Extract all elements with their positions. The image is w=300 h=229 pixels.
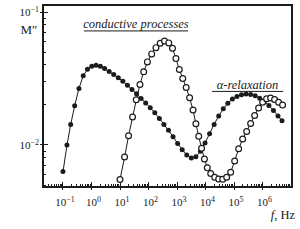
filled-circle-marker xyxy=(212,122,217,127)
open-circle-marker xyxy=(166,40,172,46)
y-axis-label: M″ xyxy=(21,22,38,37)
open-circle-marker xyxy=(256,105,262,111)
filled-circle-marker xyxy=(203,140,208,145)
filled-circle-marker xyxy=(171,134,176,139)
open-circle-marker xyxy=(244,129,250,135)
open-circle-marker xyxy=(149,51,155,57)
filled-circle-marker xyxy=(76,86,81,91)
open-circle-marker xyxy=(232,158,238,164)
open-circle-marker xyxy=(280,102,286,108)
annotation-label-1: α-relaxation xyxy=(217,78,279,92)
filled-circle-marker xyxy=(157,116,162,121)
filled-circle-marker xyxy=(207,131,212,136)
filled-circle-marker xyxy=(248,92,253,97)
filled-circle-marker xyxy=(266,103,271,108)
open-circle-marker xyxy=(204,165,210,171)
filled-circle-marker xyxy=(276,114,281,119)
filled-circle-marker xyxy=(68,122,73,127)
figure: 10−110010110210310410510610−110−2M″f, Hz… xyxy=(0,0,300,229)
open-circle-marker xyxy=(117,177,123,183)
filled-circle-marker xyxy=(189,156,194,161)
y-tick-label: 10−2 xyxy=(19,138,39,151)
filled-circle-marker xyxy=(64,142,69,147)
filled-circle-marker xyxy=(85,67,90,72)
filled-circle-marker xyxy=(244,92,249,97)
filled-circle-marker xyxy=(239,92,244,97)
filled-circle-marker xyxy=(148,105,153,110)
filled-circle-marker xyxy=(175,141,180,146)
open-circle-marker xyxy=(240,136,246,142)
filled-circle-marker xyxy=(216,114,221,119)
open-circle-marker xyxy=(173,56,179,62)
filled-circle-marker xyxy=(94,63,99,68)
open-circle-marker xyxy=(236,146,242,152)
mm-vs-frequency-plot: 10−110010110210310410510610−110−2M″f, Hz… xyxy=(0,0,300,229)
filled-circle-marker xyxy=(184,152,189,157)
filled-circle-marker xyxy=(89,64,94,69)
filled-circle-marker xyxy=(221,106,226,111)
filled-circle-marker xyxy=(253,93,258,98)
x-tick-label: 105 xyxy=(229,195,244,208)
open-circle-marker xyxy=(190,107,196,113)
open-circle-marker xyxy=(130,114,136,120)
x-tick-label: 101 xyxy=(115,195,130,208)
filled-circle-marker xyxy=(81,73,86,78)
filled-circle-marker xyxy=(116,75,121,80)
filled-circle-marker xyxy=(271,108,276,113)
filled-circle-marker xyxy=(60,169,65,174)
filled-circle-marker xyxy=(111,72,116,77)
filled-circle-marker xyxy=(102,66,107,71)
open-circle-marker xyxy=(137,82,143,88)
x-tick-label: 102 xyxy=(143,195,158,208)
filled-circle-marker xyxy=(143,101,148,106)
open-circle-marker xyxy=(126,133,132,139)
filled-circle-marker xyxy=(280,118,285,123)
annotation-label-0: conductive processes xyxy=(83,17,189,31)
filled-circle-marker xyxy=(120,79,125,84)
filled-circle-marker xyxy=(193,154,198,159)
open-circle-marker xyxy=(193,121,199,127)
open-circle-marker xyxy=(133,97,139,103)
x-tick-label: 103 xyxy=(172,195,187,208)
open-circle-marker xyxy=(187,95,193,101)
filled-circle-marker xyxy=(225,101,230,106)
x-tick-label: 106 xyxy=(257,195,272,208)
filled-circle-marker xyxy=(152,110,157,115)
filled-circle-marker xyxy=(234,94,239,99)
filled-circle-marker xyxy=(161,122,166,127)
open-circle-marker xyxy=(248,121,254,127)
filled-circle-marker xyxy=(98,64,103,69)
filled-circle-marker xyxy=(180,147,185,152)
x-tick-label: 10−1 xyxy=(55,195,75,208)
x-tick-label: 100 xyxy=(86,195,101,208)
filled-circle-marker xyxy=(72,103,77,108)
y-tick-label: 10−1 xyxy=(19,5,39,18)
open-circle-marker xyxy=(196,133,202,139)
filled-circle-marker xyxy=(230,97,235,102)
x-tick-label: 104 xyxy=(200,195,215,208)
open-circle-marker xyxy=(141,69,147,75)
filled-circle-marker xyxy=(129,87,134,92)
filled-circle-marker xyxy=(166,128,171,133)
filled-circle-marker xyxy=(125,83,130,88)
open-circle-marker xyxy=(224,174,230,180)
open-circle-marker xyxy=(144,59,150,65)
open-circle-marker xyxy=(180,76,186,82)
open-circle-marker xyxy=(176,67,182,73)
open-circle-marker xyxy=(170,45,176,51)
x-axis-label: f, Hz xyxy=(271,208,296,222)
open-circle-marker xyxy=(202,156,208,162)
filled-circle-marker xyxy=(107,69,112,74)
open-circle-marker xyxy=(228,169,234,175)
open-circle-marker xyxy=(199,145,205,151)
open-circle-marker xyxy=(122,154,128,160)
open-circle-marker xyxy=(252,113,258,119)
open-circle-marker xyxy=(183,85,189,91)
